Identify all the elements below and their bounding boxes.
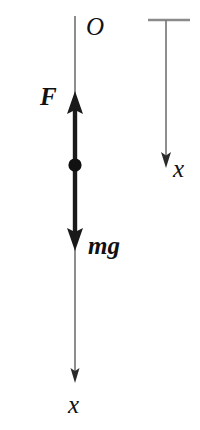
right-axis-label: x	[173, 156, 184, 181]
weight-vector	[67, 163, 83, 251]
diagram-canvas	[0, 0, 200, 430]
weight-label: mg	[88, 233, 120, 258]
left-axis-label: x	[68, 392, 79, 417]
force-vector	[67, 91, 83, 167]
physics-figure: O F mg x x	[0, 0, 200, 430]
particle-dot	[68, 158, 81, 171]
force-label: F	[40, 84, 57, 109]
right-axis	[148, 20, 190, 168]
origin-label: O	[86, 14, 104, 39]
